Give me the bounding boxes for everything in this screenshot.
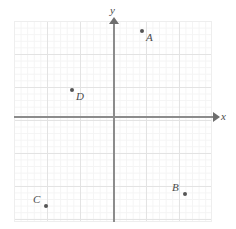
point-marker (70, 88, 74, 92)
x-axis-arrowhead-icon (213, 112, 220, 122)
point-label: B (172, 182, 179, 193)
y-axis-line (113, 23, 115, 222)
point-marker (183, 192, 187, 196)
point-marker (140, 29, 144, 33)
point-label: A (146, 32, 153, 43)
point-label: D (76, 91, 84, 102)
point-marker (44, 204, 48, 208)
coordinate-plane-figure: x y A D C B (0, 0, 236, 229)
y-axis-arrowhead-icon (109, 17, 119, 24)
point-label: C (33, 194, 40, 205)
y-axis-label: y (110, 5, 115, 16)
x-axis-label: x (221, 111, 226, 122)
